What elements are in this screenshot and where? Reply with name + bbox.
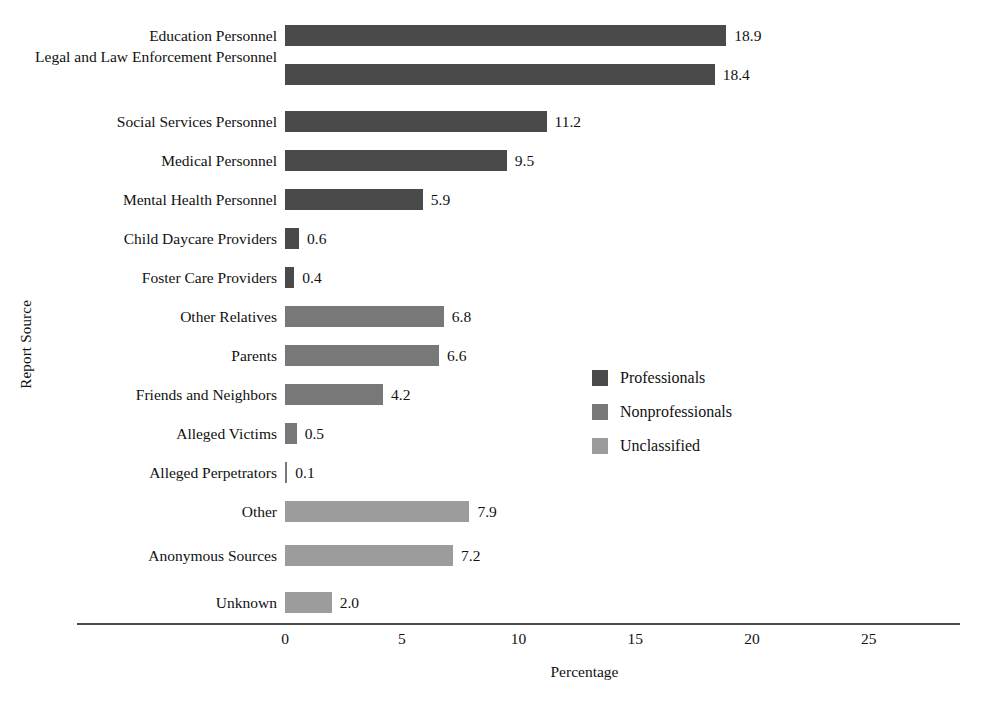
bar-row: Unknown2.0 (0, 592, 989, 613)
bar-category-label: Education Personnel (0, 25, 277, 46)
legend-label: Unclassified (620, 431, 700, 461)
bar-category-label: Friends and Neighbors (0, 384, 277, 405)
bar-value-label: 0.5 (305, 423, 324, 444)
bar-category-label: Unknown (0, 592, 277, 613)
bar (285, 592, 332, 613)
bar-value-label: 9.5 (515, 150, 534, 171)
bar-value-label: 18.9 (734, 25, 761, 46)
bar (285, 306, 444, 327)
bar-row: Medical Personnel9.5 (0, 150, 989, 171)
bar-row: Child Daycare Providers0.6 (0, 228, 989, 249)
bar (285, 423, 297, 444)
bar-row: Alleged Victims0.5 (0, 423, 989, 444)
bar-category-label: Alleged Perpetrators (0, 462, 277, 483)
bar-row: Other7.9 (0, 501, 989, 522)
bar-category-label: Child Daycare Providers (0, 228, 277, 249)
bar-value-label: 18.4 (723, 64, 750, 85)
bar (285, 267, 294, 288)
bar-value-label: 6.6 (447, 345, 466, 366)
bar (285, 545, 453, 566)
legend-label: Nonprofessionals (620, 397, 732, 427)
x-axis-tick-label: 0 (255, 630, 315, 648)
bar-value-label: 7.9 (477, 501, 496, 522)
plot-area: Education Personnel18.9Legal and Law Enf… (0, 0, 989, 707)
bar-category-label: Parents (0, 345, 277, 366)
x-axis-title-text: Percentage (551, 663, 619, 680)
bar-value-label: 11.2 (555, 111, 582, 132)
bar-row: Parents6.6 (0, 345, 989, 366)
bar (285, 150, 507, 171)
bar-category-label: Other Relatives (0, 306, 277, 327)
bar-value-label: 6.8 (452, 306, 471, 327)
bar (285, 189, 423, 210)
bar (285, 111, 547, 132)
legend-swatch-icon (592, 438, 608, 454)
x-axis-tick-label: 25 (839, 630, 899, 648)
bar-row: Alleged Perpetrators0.1 (0, 462, 989, 483)
x-axis-line (77, 623, 960, 625)
x-axis-tick-label: 10 (489, 630, 549, 648)
bar (285, 64, 715, 85)
bar (285, 25, 726, 46)
bar-category-label: Anonymous Sources (0, 545, 277, 566)
bar (285, 384, 383, 405)
bar-value-label: 7.2 (461, 545, 480, 566)
bar-row: Mental Health Personnel5.9 (0, 189, 989, 210)
legend-label: Professionals (620, 363, 705, 393)
bar-row: Other Relatives6.8 (0, 306, 989, 327)
x-axis-tick-label: 5 (372, 630, 432, 648)
bar-category-label: Medical Personnel (0, 150, 277, 171)
bar-row: Anonymous Sources7.2 (0, 545, 989, 566)
x-axis-title: Percentage (0, 663, 989, 681)
bar-chart: Report Source Education Personnel18.9Leg… (0, 0, 989, 707)
bar (285, 501, 469, 522)
x-axis-tick-label: 20 (722, 630, 782, 648)
bar-row: Education Personnel18.9 (0, 25, 989, 46)
bar (285, 228, 299, 249)
bar-value-label: 0.1 (295, 462, 314, 483)
bar-value-label: 0.4 (302, 267, 321, 288)
bar-row: Legal and Law Enforcement Personnel18.4 (0, 64, 989, 85)
bar (285, 345, 439, 366)
bar-category-label: Mental Health Personnel (0, 189, 277, 210)
bar-row: Friends and Neighbors4.2 (0, 384, 989, 405)
bar-category-label: Social Services Personnel (0, 111, 277, 132)
bar-category-label: Other (0, 501, 277, 522)
bar-value-label: 5.9 (431, 189, 450, 210)
bar-category-label: Alleged Victims (0, 423, 277, 444)
bar-value-label: 0.6 (307, 228, 326, 249)
bar-value-label: 2.0 (340, 592, 359, 613)
bar-category-label: Foster Care Providers (0, 267, 277, 288)
x-axis-tick-label: 15 (605, 630, 665, 648)
bar (285, 462, 287, 483)
bar-value-label: 4.2 (391, 384, 410, 405)
legend-swatch-icon (592, 370, 608, 386)
bar-row: Foster Care Providers0.4 (0, 267, 989, 288)
bar-row: Social Services Personnel11.2 (0, 111, 989, 132)
legend-swatch-icon (592, 404, 608, 420)
bar-category-label: Legal and Law Enforcement Personnel (0, 47, 277, 85)
